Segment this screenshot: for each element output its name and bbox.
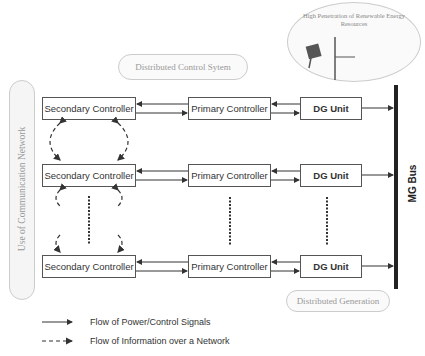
solar-panel-icon: [306, 43, 322, 68]
connectors: [0, 0, 425, 356]
wind-turbine-icon: [335, 37, 355, 80]
